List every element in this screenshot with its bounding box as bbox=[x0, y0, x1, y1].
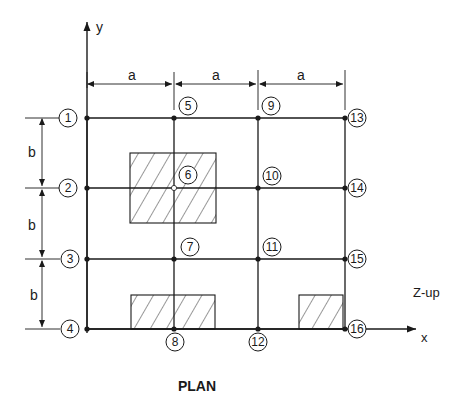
horizontal-dimension: a a a bbox=[87, 67, 345, 110]
node-label: 10 bbox=[265, 169, 279, 183]
node-point bbox=[84, 256, 89, 261]
node-point bbox=[342, 115, 347, 120]
node-point bbox=[255, 256, 260, 261]
node-point bbox=[84, 115, 89, 120]
node-label: 15 bbox=[350, 252, 364, 266]
node-4: 4 bbox=[61, 320, 90, 338]
dim-b-2: b bbox=[28, 217, 36, 233]
node-point bbox=[342, 185, 347, 190]
plan-title: PLAN bbox=[178, 378, 216, 394]
slab-hatch-bottom-left bbox=[131, 295, 215, 329]
node-9: 9 bbox=[255, 97, 280, 121]
node-label: 12 bbox=[251, 335, 265, 349]
node-13: 13 bbox=[342, 109, 366, 127]
vertical-dimension: b b b bbox=[25, 118, 60, 329]
hatched-regions bbox=[130, 153, 343, 329]
node-point bbox=[342, 256, 347, 261]
node-point bbox=[84, 326, 89, 331]
node-16: 16 bbox=[342, 320, 366, 338]
node-7: 7 bbox=[171, 238, 199, 262]
dim-b-1: b bbox=[28, 144, 36, 160]
node-label: 1 bbox=[65, 111, 72, 125]
node-point bbox=[171, 185, 176, 190]
node-label: 14 bbox=[350, 181, 364, 195]
node-label: 4 bbox=[67, 322, 74, 336]
node-point bbox=[255, 185, 260, 190]
y-axis-label: y bbox=[96, 19, 103, 35]
node-14: 14 bbox=[342, 179, 366, 197]
node-label: 5 bbox=[185, 99, 192, 113]
node-point bbox=[255, 115, 260, 120]
node-8: 8 bbox=[166, 326, 184, 351]
node-label: 16 bbox=[350, 322, 364, 336]
node-point bbox=[84, 185, 89, 190]
node-label: 2 bbox=[65, 181, 72, 195]
node-label: 11 bbox=[266, 240, 279, 254]
node-10: 10 bbox=[255, 167, 281, 191]
node-3: 3 bbox=[61, 250, 90, 268]
node-12: 12 bbox=[249, 326, 267, 351]
node-1: 1 bbox=[59, 109, 90, 127]
node-point bbox=[171, 115, 176, 120]
node-11: 11 bbox=[255, 238, 281, 262]
dim-a-3: a bbox=[297, 67, 305, 83]
plan-diagram: y x a a a b b b 12345678910111213141516 … bbox=[0, 0, 467, 404]
slab-hatch-bottom-right bbox=[299, 295, 343, 329]
node-label: 9 bbox=[268, 99, 275, 113]
node-2: 2 bbox=[59, 179, 90, 197]
x-axis-label: x bbox=[421, 330, 428, 345]
dim-a-1: a bbox=[128, 67, 136, 83]
node-label: 8 bbox=[172, 335, 179, 349]
node-point bbox=[171, 256, 176, 261]
node-15: 15 bbox=[342, 250, 366, 268]
node-point bbox=[342, 326, 347, 331]
node-label: 7 bbox=[187, 240, 194, 254]
node-point bbox=[171, 326, 176, 331]
node-label: 13 bbox=[350, 111, 364, 125]
dim-a-2: a bbox=[212, 67, 220, 83]
node-label: 6 bbox=[185, 168, 192, 182]
node-label: 3 bbox=[67, 252, 74, 266]
node-5: 5 bbox=[171, 97, 197, 121]
z-up-note: Z-up bbox=[413, 285, 440, 300]
node-point bbox=[255, 326, 260, 331]
dim-b-3: b bbox=[30, 287, 38, 303]
